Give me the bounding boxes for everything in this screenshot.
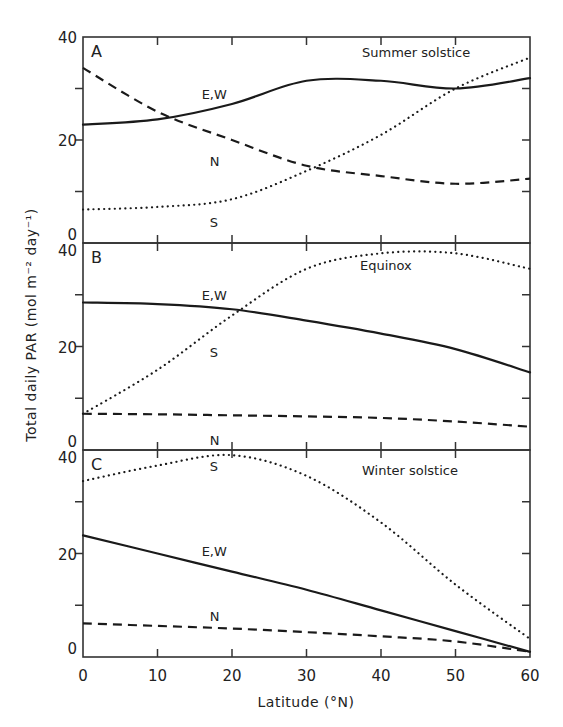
series-label: E,W — [202, 288, 227, 303]
x-axis-title: Latitude (°N) — [258, 694, 355, 710]
y-axis-title: Total daily PAR (mol m⁻² day⁻¹) — [23, 208, 39, 442]
x-tick-label: 10 — [148, 667, 167, 685]
series-ew-line — [83, 303, 530, 373]
panel-letter: A — [91, 42, 102, 61]
y-tick-label: 20 — [58, 339, 77, 357]
panel-title: Summer solstice — [362, 45, 470, 60]
y-tick-label: 20 — [58, 132, 77, 150]
figure: Total daily PAR (mol m⁻² day⁻¹) Latitude… — [0, 0, 563, 727]
series-ew-line — [83, 535, 530, 651]
panel-title: Equinox — [360, 258, 412, 273]
panel-title: Winter solstice — [362, 463, 458, 478]
series-label: S — [210, 459, 218, 474]
panel-letter: B — [91, 248, 102, 267]
x-tick-label: 40 — [371, 667, 390, 685]
series-s-line — [83, 251, 530, 413]
series-n-line — [83, 623, 530, 651]
panel-frame — [83, 243, 530, 450]
series-n-line — [83, 414, 530, 427]
series-label: N — [210, 433, 220, 448]
x-tick-label: 30 — [297, 667, 316, 685]
series-label: S — [210, 345, 218, 360]
y-tick-label: 40 — [58, 29, 77, 47]
x-tick-label: 20 — [222, 667, 241, 685]
series-label: S — [210, 215, 218, 230]
y-tick-label: 40 — [58, 242, 77, 260]
panel-a: 02040ASummer solsticeE,WNS — [58, 29, 530, 244]
y-tick-label: 40 — [58, 449, 77, 467]
series-label: E,W — [202, 544, 227, 559]
panels: 02040ASummer solsticeE,WNS02040BEquinoxE… — [58, 29, 540, 685]
series-s-line — [83, 455, 530, 639]
x-tick-label: 0 — [78, 667, 88, 685]
series-label: N — [210, 154, 220, 169]
panel-frame — [83, 37, 530, 243]
y-tick-label: 20 — [58, 546, 77, 564]
panel-c: 02040CWinter solsticeSE,WN — [58, 449, 530, 658]
panel-letter: C — [91, 455, 102, 474]
series-label: E,W — [202, 87, 227, 102]
panel-b: 02040BEquinoxE,WSN — [58, 242, 530, 451]
y-tick-label: 0 — [67, 640, 77, 658]
x-tick-label: 50 — [446, 667, 465, 685]
x-tick-label: 60 — [520, 667, 539, 685]
series-label: N — [210, 609, 220, 624]
